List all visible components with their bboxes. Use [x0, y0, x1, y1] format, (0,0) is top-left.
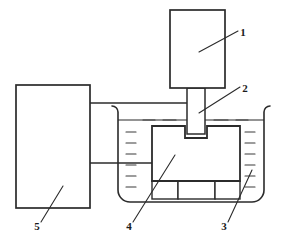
controller-box [16, 85, 90, 208]
callout-label-3: 3 [221, 220, 227, 232]
figure-canvas: 12345 [0, 0, 284, 240]
support-blocks [152, 181, 240, 199]
schematic-drawing: 12345 [0, 0, 284, 240]
drive-unit-box [170, 10, 225, 88]
controller-body [16, 85, 90, 208]
callout-label-4: 4 [126, 220, 132, 232]
callout-label-5: 5 [34, 220, 40, 232]
callout-label-1: 1 [240, 26, 246, 38]
support-block [152, 181, 178, 199]
support-block [178, 181, 215, 199]
callout-label-2: 2 [242, 82, 248, 94]
drive-unit-body [170, 10, 225, 88]
support-block [215, 181, 240, 199]
